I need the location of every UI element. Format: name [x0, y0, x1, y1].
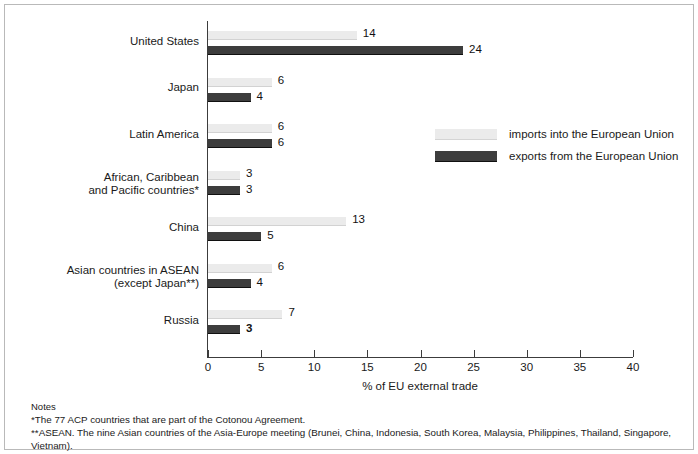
- category-label-line: United States: [9, 35, 199, 48]
- bar-value-imports: 13: [352, 214, 365, 224]
- bar-exports: [208, 279, 251, 288]
- bar-imports: [208, 78, 272, 87]
- x-axis-tick-label: 25: [454, 361, 494, 373]
- legend-item-exports: exports from the European Union: [435, 145, 678, 167]
- bar-value-exports: 24: [469, 44, 482, 54]
- bar-group: China135: [5, 217, 695, 264]
- bar-value-exports: 4: [257, 277, 263, 287]
- bar-imports: [208, 124, 272, 133]
- legend-swatch-imports-icon: [435, 129, 497, 140]
- x-axis-tick-label: 5: [241, 361, 281, 373]
- x-axis-tick-label: 35: [560, 361, 600, 373]
- category-label: Asian countries in ASEAN(except Japan**): [9, 264, 199, 290]
- category-label-line: Russia: [9, 314, 199, 327]
- category-label: Japan: [9, 81, 199, 94]
- bar-exports: [208, 93, 251, 102]
- bar-value-imports: 6: [278, 261, 284, 271]
- bar-group: Russia73: [5, 310, 695, 357]
- bar-value-imports: 7: [288, 307, 294, 317]
- bar-imports: [208, 264, 272, 273]
- bar-exports: [208, 139, 272, 148]
- x-axis-tick-label: 10: [294, 361, 334, 373]
- category-label-line: Asian countries in ASEAN: [9, 264, 199, 277]
- category-label-line: China: [9, 221, 199, 234]
- bar-chart-plot-area: 0510152025303540 % of EU external trade …: [5, 5, 695, 451]
- bar-imports: [208, 31, 357, 40]
- bar-value-imports: 3: [246, 168, 252, 178]
- category-label: Latin America: [9, 128, 199, 141]
- bar-imports: [208, 217, 346, 226]
- x-axis-tick-label: 0: [188, 361, 228, 373]
- bar-value-exports: 4: [257, 91, 263, 101]
- x-axis-title: % of EU external trade: [207, 380, 633, 392]
- bar-value-imports: 6: [278, 75, 284, 85]
- category-label-line: (except Japan**): [9, 277, 199, 290]
- bar-imports: [208, 171, 240, 180]
- category-label-line: Latin America: [9, 128, 199, 141]
- bar-imports: [208, 310, 282, 319]
- bar-value-imports: 6: [278, 121, 284, 131]
- category-label-line: African, Caribbean: [9, 171, 199, 184]
- bar-value-exports: 6: [278, 137, 284, 147]
- category-label: China: [9, 221, 199, 234]
- note-line-asean: **ASEAN. The nine Asian countries of the…: [31, 426, 681, 452]
- x-axis-tick-label: 20: [401, 361, 441, 373]
- chart-frame: 0510152025303540 % of EU external trade …: [4, 4, 694, 450]
- chart-legend: imports into the European Union exports …: [435, 123, 678, 167]
- bar-exports: [208, 46, 463, 55]
- bar-group: United States1424: [5, 31, 695, 78]
- notes-heading: Notes: [31, 401, 681, 413]
- category-label: African, Caribbeanand Pacific countries*: [9, 171, 199, 197]
- bar-value-exports: 3: [246, 184, 252, 194]
- category-label: United States: [9, 35, 199, 48]
- x-axis-tick-label: 15: [347, 361, 387, 373]
- chart-notes: Notes *The 77 ACP countries that are par…: [31, 401, 681, 452]
- note-line-acp: *The 77 ACP countries that are part of t…: [31, 413, 681, 426]
- x-axis-tick-label: 40: [613, 361, 653, 373]
- legend-label-imports: imports into the European Union: [509, 128, 674, 140]
- bar-exports: [208, 232, 261, 241]
- bar-exports: [208, 186, 240, 195]
- bar-group: Asian countries in ASEAN(except Japan**)…: [5, 264, 695, 311]
- bar-value-exports: 3: [246, 323, 252, 333]
- bar-exports: [208, 325, 240, 334]
- legend-item-imports: imports into the European Union: [435, 123, 678, 145]
- category-label-line: Japan: [9, 81, 199, 94]
- bar-group: African, Caribbeanand Pacific countries*…: [5, 171, 695, 218]
- legend-label-exports: exports from the European Union: [509, 150, 678, 162]
- category-label-line: and Pacific countries*: [9, 184, 199, 197]
- category-label: Russia: [9, 314, 199, 327]
- bar-value-exports: 5: [267, 230, 273, 240]
- x-axis-tick-label: 30: [507, 361, 547, 373]
- bar-group: Japan64: [5, 78, 695, 125]
- bar-value-imports: 14: [363, 28, 376, 38]
- x-axis-line: [207, 357, 633, 358]
- legend-swatch-exports-icon: [435, 151, 497, 162]
